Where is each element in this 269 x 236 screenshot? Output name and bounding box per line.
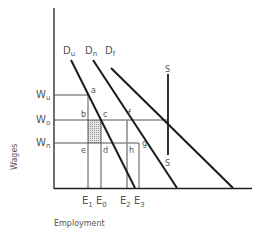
label-wn: Wn: [36, 137, 50, 150]
label-df: Df: [105, 45, 116, 58]
point-f: f: [128, 109, 131, 118]
label-e3: E3: [134, 195, 145, 209]
point-d: d: [103, 146, 108, 155]
label-dn: Dn: [85, 45, 97, 58]
y-axis-title: Wages: [10, 144, 19, 170]
point-b: b: [81, 110, 86, 119]
label-s-bottom: S: [165, 159, 170, 168]
label-e2: E2: [120, 195, 131, 209]
point-h: h: [129, 146, 134, 155]
x-axis-title: Employment: [54, 219, 105, 228]
label-wu: Wu: [36, 89, 50, 102]
demand-curve-du: [71, 60, 135, 188]
point-c: c: [103, 110, 107, 119]
point-a: a: [91, 86, 96, 95]
label-s-top: S: [165, 65, 170, 74]
demand-curve-dn: [93, 60, 177, 188]
label-e0: E0: [96, 195, 107, 209]
labor-market-diagram: Du Dn Df S S Wu Wo Wn E1 E0 E2 E3 a b c …: [0, 0, 269, 236]
label-e1: E1: [82, 195, 93, 209]
label-du: Du: [63, 45, 75, 58]
shaded-area-bcde: [88, 120, 101, 143]
demand-curve-df: [111, 68, 233, 188]
label-wo: Wo: [36, 114, 50, 127]
point-g: g: [142, 139, 147, 148]
point-e: e: [81, 146, 86, 155]
